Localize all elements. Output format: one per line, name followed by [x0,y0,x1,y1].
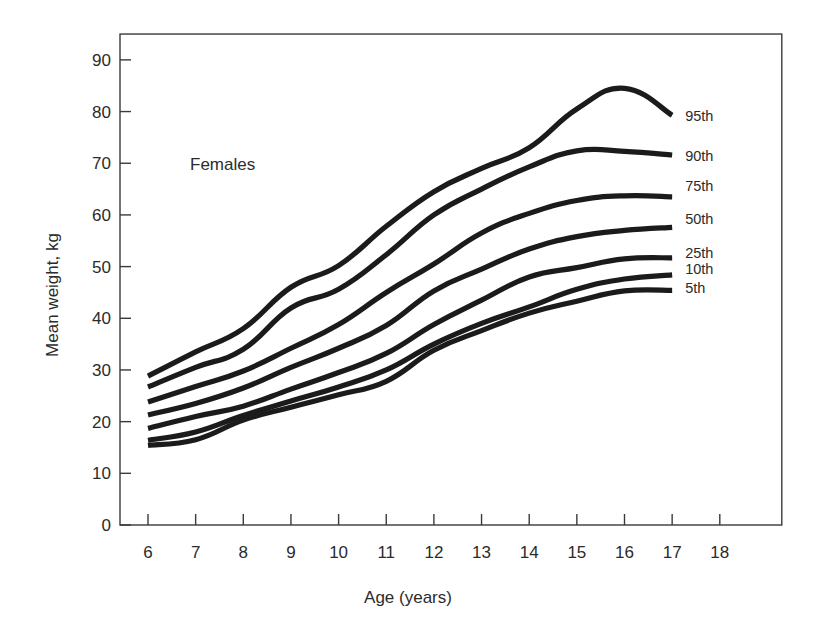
series-label-95th: 95th [685,108,713,124]
weight-percentile-line-chart: 0102030405060708090678910111213141516171… [0,0,815,630]
series-label-50th: 50th [685,211,713,227]
series-label-90th: 90th [685,148,713,164]
x-tick-label: 14 [520,543,539,562]
x-tick-label: 7 [191,543,200,562]
x-tick-label: 12 [424,543,443,562]
y-tick-label: 40 [92,309,111,328]
x-tick-label: 17 [663,543,682,562]
y-tick-label: 70 [92,154,111,173]
series-label-25th: 25th [685,245,713,261]
x-tick-label: 6 [143,543,152,562]
x-axis-title: Age (years) [364,588,452,607]
x-tick-label: 15 [567,543,586,562]
series-label-10th: 10th [685,261,713,277]
y-tick-label: 80 [92,103,111,122]
series-label-5th: 5th [685,280,705,296]
y-tick-label: 10 [92,464,111,483]
chart-container: 0102030405060708090678910111213141516171… [0,0,815,630]
series-label-75th: 75th [685,178,713,194]
x-tick-label: 11 [377,543,395,562]
y-tick-label: 90 [92,51,111,70]
x-tick-label: 16 [615,543,634,562]
x-tick-label: 13 [472,543,491,562]
y-axis-title: Mean weight, kg [43,233,62,357]
y-tick-label: 50 [92,258,111,277]
x-tick-label: 9 [286,543,295,562]
y-tick-label: 0 [102,516,111,535]
annotation-females: Females [190,155,255,174]
y-tick-label: 30 [92,361,111,380]
x-tick-label: 8 [239,543,248,562]
figure-root: 0102030405060708090678910111213141516171… [0,0,815,630]
x-tick-label: 18 [710,543,729,562]
chart-background [0,0,815,630]
y-tick-label: 60 [92,206,111,225]
x-tick-label: 10 [329,543,348,562]
y-tick-label: 20 [92,413,111,432]
